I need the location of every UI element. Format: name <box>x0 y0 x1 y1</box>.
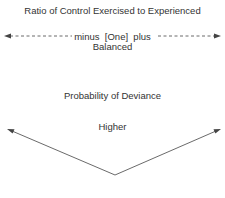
deviance-title: Probability of Deviance <box>0 90 225 101</box>
balanced-label: Balanced <box>0 41 225 52</box>
deviance-left-arrow-icon <box>7 129 115 175</box>
higher-label: Higher <box>0 121 225 132</box>
deviance-right-arrow-icon <box>115 129 221 175</box>
